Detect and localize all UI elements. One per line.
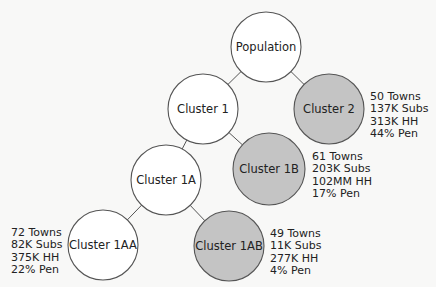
- node-label-population: Population: [236, 40, 296, 54]
- edge-population-to-cluster-2: [291, 72, 304, 85]
- node-label-cluster-1: Cluster 1: [177, 102, 229, 116]
- stat-subs: 137K Subs: [370, 103, 428, 115]
- stats-cluster-1ab: 49 Towns 11K Subs 277K HH 4% Pen: [270, 228, 321, 278]
- stat-pen: 44% Pen: [370, 128, 428, 140]
- stat-subs: 11K Subs: [270, 240, 321, 252]
- node-label-cluster-1aa: Cluster 1AA: [69, 238, 137, 252]
- edge-cluster-1a-to-cluster-1aa: [127, 205, 141, 220]
- edge-cluster-1-to-cluster-1b: [229, 133, 242, 145]
- edge-population-to-cluster-1: [228, 72, 241, 85]
- stat-pen: 4% Pen: [270, 265, 321, 277]
- node-label-cluster-1b: Cluster 1B: [239, 162, 299, 176]
- node-label-cluster-1ab: Cluster 1AB: [195, 239, 263, 253]
- stat-pen: 22% Pen: [11, 264, 62, 276]
- node-label-cluster-2: Cluster 2: [303, 102, 355, 116]
- stat-subs: 203K Subs: [312, 163, 372, 175]
- stats-cluster-1b: 61 Towns 203K Subs 102MM HH 17% Pen: [312, 151, 372, 201]
- node-label-cluster-1a: Cluster 1A: [136, 173, 196, 187]
- stat-pen: 17% Pen: [312, 188, 372, 200]
- edge-cluster-1-to-cluster-1a: [182, 140, 187, 149]
- stats-cluster-1aa: 72 Towns 82K Subs 375K HH 22% Pen: [11, 227, 62, 277]
- stat-subs: 82K Subs: [11, 239, 62, 251]
- stats-cluster-2: 50 Towns 137K Subs 313K HH 44% Pen: [370, 91, 428, 141]
- edge-cluster-1a-to-cluster-1ab: [190, 205, 205, 220]
